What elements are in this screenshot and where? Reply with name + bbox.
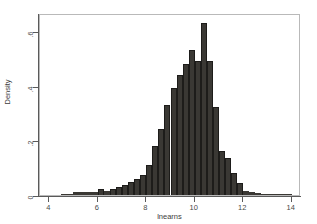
x-tick-label: 8	[133, 203, 157, 212]
x-tick-label: 14	[279, 203, 303, 212]
x-tick-label: 4	[36, 203, 60, 212]
x-axis-title: lnearns	[39, 212, 300, 221]
x-tick-mark	[145, 197, 146, 202]
x-tick-label: 10	[182, 203, 206, 212]
y-tick-label: .6	[28, 31, 35, 37]
y-axis-line	[38, 14, 39, 197]
y-tick-label: .4	[28, 86, 35, 92]
histogram-figure: 0.2.4.6 Density 468101214 lnearns	[0, 0, 317, 224]
plot-area	[39, 14, 300, 196]
x-tick-mark	[242, 197, 243, 202]
x-tick-mark	[48, 197, 49, 202]
x-tick-mark	[291, 197, 292, 202]
x-tick-label: 12	[230, 203, 254, 212]
x-tick-mark	[194, 197, 195, 202]
y-axis-title: Density	[4, 62, 12, 122]
y-tick-label: 0	[28, 196, 35, 200]
x-axis-line	[38, 196, 301, 197]
x-tick-mark	[97, 197, 98, 202]
histogram-bar	[286, 194, 292, 195]
y-tick-label: .2	[28, 141, 35, 147]
x-tick-label: 6	[85, 203, 109, 212]
histogram-bars	[40, 15, 299, 195]
